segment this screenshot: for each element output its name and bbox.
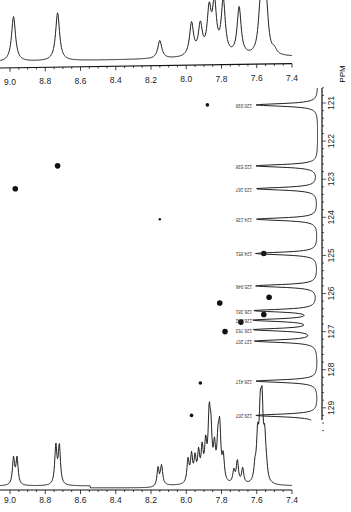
cross-peak — [261, 251, 267, 257]
carbon-13-spectrum — [253, 88, 318, 420]
x-tick-label: 9.0 — [4, 77, 16, 87]
carbon-peak-label: 124.135 — [235, 217, 252, 222]
x-tick-label: 8.6 — [75, 76, 87, 86]
x-tick-label: 7.8 — [216, 495, 228, 505]
x-tick-label: 7.6 — [251, 73, 263, 83]
x-tick-label: 8.8 — [39, 76, 51, 86]
x-tick-label: 8.0 — [180, 495, 192, 505]
y-tick-label: 123 — [326, 172, 336, 186]
y-tick-label: 124 — [326, 210, 336, 224]
carbon-peak-label: 120.938 — [235, 103, 252, 108]
carbon-peak-label: 123.167 — [235, 187, 252, 192]
cross-peak — [222, 329, 228, 335]
x-tick-label: 8.6 — [75, 495, 87, 505]
carbon-peak-labels: 120.938122.538123.167124.135124.851125.9… — [235, 103, 252, 419]
y-tick-label: 125 — [326, 248, 336, 262]
carbon-peak-label: 128.417 — [235, 379, 252, 384]
carbon-peak-label: 126.763 — [235, 328, 252, 333]
cross-peak — [199, 381, 203, 385]
x-tick-label: 8.2 — [145, 75, 157, 85]
x-tick-label: 8.2 — [145, 495, 157, 505]
y-tick-label: 122 — [326, 134, 336, 148]
y-tick-label: 128 — [326, 362, 336, 376]
carbon-peak-label: 125.946 — [235, 284, 252, 289]
right-ppm-axis: 121122123124125126127128129 — [322, 88, 336, 431]
x-tick-label: 7.8 — [216, 74, 228, 84]
cross-peak — [159, 218, 161, 220]
cross-peak-dots — [12, 103, 271, 417]
x-tick-label: 7.4 — [286, 73, 298, 83]
cross-peak — [261, 312, 267, 318]
cross-peak — [12, 186, 18, 192]
carbon-peak-label: 126.381 — [235, 309, 252, 314]
carbon-peak-label: 124.851 — [235, 251, 252, 256]
x-tick-label: 7.4 — [286, 495, 298, 505]
nmr-hetcor-plot: 9.08.88.68.48.28.07.87.67.4 120.938122.5… — [0, 0, 351, 512]
cross-peak — [55, 163, 61, 169]
cross-peak — [266, 295, 272, 301]
cross-peak — [190, 414, 194, 418]
x-tick-label: 8.8 — [39, 495, 51, 505]
carbon-peak-label: 127.207 — [235, 339, 252, 344]
carbon-peak-label: 126.582 — [235, 318, 252, 323]
y-tick-label: 121 — [326, 96, 336, 110]
y-tick-label: 127 — [326, 324, 336, 338]
top-ppm-axis: 9.08.88.68.48.28.07.87.67.4 — [0, 64, 298, 87]
y-tick-label: 126 — [326, 286, 336, 300]
cross-peak — [206, 103, 210, 107]
x-tick-label: 8.4 — [110, 495, 122, 505]
bottom-1h-projection — [0, 386, 292, 488]
x-tick-label: 7.6 — [251, 495, 263, 505]
carbon-peak-label: 129.207 — [235, 413, 252, 418]
carbon-peak-label: 122.538 — [235, 164, 252, 169]
x-tick-label: 9.0 — [4, 495, 16, 505]
bottom-ppm-axis: 9.08.88.68.48.28.07.87.67.4 — [0, 490, 298, 505]
y-tick-label: 129 — [326, 400, 336, 414]
top-1h-projection — [0, 0, 292, 61]
x-tick-label: 8.4 — [110, 75, 122, 85]
cross-peak — [217, 300, 223, 306]
ppm-axis-title: PPM — [338, 65, 347, 83]
x-tick-label: 8.0 — [180, 74, 192, 84]
